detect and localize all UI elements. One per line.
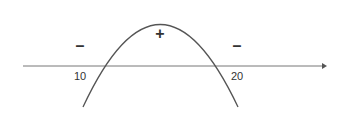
sign-plus-middle: + xyxy=(155,25,164,42)
root-label-20: 20 xyxy=(231,70,243,82)
axis-arrow-icon xyxy=(322,63,327,69)
sign-minus-left: – xyxy=(76,37,85,54)
root-label-10: 10 xyxy=(74,70,86,82)
sign-minus-right: – xyxy=(233,37,242,54)
sign-chart: 10 20 – + – xyxy=(0,0,342,114)
